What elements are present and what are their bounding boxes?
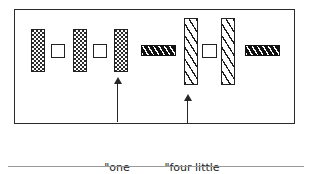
bottom-divider	[8, 166, 304, 167]
arrow-stem	[187, 99, 189, 123]
wide-bar-black-hatch-1	[141, 45, 176, 56]
small-square-2	[93, 44, 107, 58]
caption-one-clap-line1: "one	[86, 160, 148, 174]
extra-tall-bar-hatched-2	[221, 18, 235, 85]
caption-four-little-claps: "four little claps"	[150, 130, 234, 174]
extra-tall-bar-hatched-1	[184, 18, 198, 85]
tall-bar-dotted-3	[114, 29, 128, 72]
small-square-1	[51, 44, 65, 58]
arrow-stem	[117, 82, 119, 122]
arrow-up-one-clap	[113, 77, 122, 122]
wide-bar-black-hatch-2	[245, 45, 280, 56]
arrow-up-four-little-claps	[183, 94, 192, 123]
tall-bar-dotted-2	[73, 29, 87, 72]
tall-bar-dotted-1	[31, 29, 45, 72]
diagram-frame	[14, 9, 295, 124]
caption-one-clap: "one clap"	[86, 130, 148, 174]
caption-four-little-claps-line1: "four little	[150, 160, 234, 174]
diagram-canvas: "one clap" "four little claps"	[0, 0, 311, 174]
small-square-3	[202, 44, 217, 58]
